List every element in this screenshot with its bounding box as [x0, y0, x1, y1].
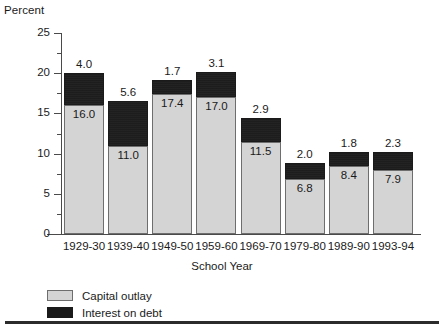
bar-value-label-interest-on-debt: 4.0: [64, 58, 104, 70]
legend-item-capital-outlay: Capital outlay: [47, 288, 287, 303]
bar-group[interactable]: 7.92.3: [373, 33, 413, 234]
y-tick-minor: [57, 53, 61, 54]
x-tick-label: 1993-94: [371, 240, 415, 253]
x-tick-label: 1939-40: [106, 240, 150, 253]
bar-segment-interest-on-debt[interactable]: [196, 72, 236, 97]
y-tick-label: 25: [6, 27, 50, 39]
plot-area: 16.04.011.05.617.41.717.03.111.52.96.82.…: [62, 33, 415, 234]
legend-swatch-icon-capital-outlay: [47, 290, 73, 301]
y-axis-title: Percent: [4, 4, 44, 16]
y-tick-major: [54, 234, 61, 235]
bar-segment-capital-outlay[interactable]: [196, 97, 236, 234]
bar-value-label-interest-on-debt: 2.3: [373, 137, 413, 149]
bar-group[interactable]: 8.41.8: [329, 33, 369, 234]
y-tick-major: [54, 113, 61, 114]
bar-segment-interest-on-debt[interactable]: [64, 73, 104, 105]
bar-value-label-interest-on-debt: 3.1: [196, 57, 236, 69]
legend-swatch-icon-interest-on-debt: [47, 307, 73, 318]
bar-group[interactable]: 17.03.1: [196, 33, 236, 234]
bar-baseline: [373, 233, 413, 234]
bar-value-label-capital-outlay: 17.4: [152, 97, 192, 109]
y-tick-major: [54, 33, 61, 34]
bar-segment-interest-on-debt[interactable]: [329, 152, 369, 166]
bar-value-label-interest-on-debt: 5.6: [108, 86, 148, 98]
bar-value-label-capital-outlay: 6.8: [285, 182, 325, 194]
x-axis-line: [47, 234, 421, 235]
y-tick-major: [54, 154, 61, 155]
bar-baseline: [285, 233, 325, 234]
y-tick-minor: [57, 93, 61, 94]
bar-value-label-capital-outlay: 16.0: [64, 108, 104, 120]
bar-segment-capital-outlay[interactable]: [152, 94, 192, 234]
bar-group[interactable]: 6.82.0: [285, 33, 325, 234]
x-tick-label: 1989-90: [327, 240, 371, 253]
bar-baseline: [241, 233, 281, 234]
x-tick-label: 1979-80: [283, 240, 327, 253]
stacked-bar-chart: Percent 0510152025 16.04.011.05.617.41.7…: [0, 0, 444, 334]
bar-baseline: [64, 233, 104, 234]
bar-value-label-capital-outlay: 11.5: [241, 145, 281, 157]
bar-value-label-interest-on-debt: 2.9: [241, 103, 281, 115]
chart-legend: Capital outlay Interest on debt: [47, 288, 287, 322]
x-tick-label: 1929-30: [62, 240, 106, 253]
bar-segment-interest-on-debt[interactable]: [285, 163, 325, 179]
y-tick-minor: [57, 134, 61, 135]
bar-segment-interest-on-debt[interactable]: [241, 118, 281, 141]
y-tick-major: [54, 194, 61, 195]
y-tick-label: 0: [6, 228, 50, 240]
y-tick-label: 15: [6, 107, 50, 119]
bar-value-label-capital-outlay: 17.0: [196, 100, 236, 112]
bar-group[interactable]: 11.52.9: [241, 33, 281, 234]
bar-segment-interest-on-debt[interactable]: [108, 101, 148, 146]
bar-value-label-interest-on-debt: 1.8: [329, 137, 369, 149]
bottom-divider: [5, 321, 439, 324]
bar-value-label-interest-on-debt: 1.7: [152, 65, 192, 77]
y-tick-minor: [57, 174, 61, 175]
bar-group[interactable]: 17.41.7: [152, 33, 192, 234]
x-axis-title: School Year: [0, 260, 444, 272]
bar-group[interactable]: 16.04.0: [64, 33, 104, 234]
bar-segment-capital-outlay[interactable]: [64, 105, 104, 234]
bar-baseline: [108, 233, 148, 234]
x-tick-label: 1949-50: [150, 240, 194, 253]
y-tick-label: 5: [6, 188, 50, 200]
bar-segment-interest-on-debt[interactable]: [373, 152, 413, 170]
bar-value-label-capital-outlay: 7.9: [373, 173, 413, 185]
legend-label-interest-on-debt: Interest on debt: [82, 307, 162, 319]
bar-baseline: [152, 233, 192, 234]
x-tick-label: 1969-70: [239, 240, 283, 253]
bar-value-label-interest-on-debt: 2.0: [285, 148, 325, 160]
y-tick-minor: [57, 214, 61, 215]
legend-item-interest-on-debt: Interest on debt: [47, 305, 287, 320]
bar-segment-interest-on-debt[interactable]: [152, 80, 192, 94]
bar-value-label-capital-outlay: 8.4: [329, 169, 369, 181]
legend-label-capital-outlay: Capital outlay: [82, 290, 152, 302]
y-tick-major: [54, 73, 61, 74]
bar-value-label-capital-outlay: 11.0: [108, 149, 148, 161]
y-tick-label: 20: [6, 67, 50, 79]
bar-group[interactable]: 11.05.6: [108, 33, 148, 234]
bar-baseline: [329, 233, 369, 234]
bar-baseline: [196, 233, 236, 234]
x-tick-label: 1959-60: [194, 240, 238, 253]
y-tick-label: 10: [6, 148, 50, 160]
